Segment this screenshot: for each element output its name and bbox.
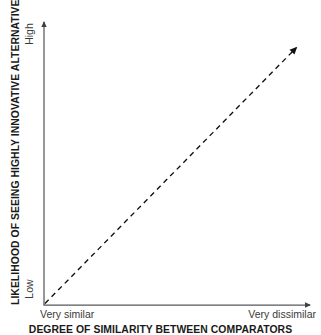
- x-tick-label-left: Very similar: [40, 308, 94, 320]
- x-tick-label-right: Very dissimilar: [248, 308, 316, 320]
- x-axis-title: DEGREE OF SIMILARITY BETWEEN COMPARATORS: [0, 324, 321, 335]
- trend-line-series: [45, 48, 296, 304]
- plot-area: [0, 0, 321, 335]
- chart-figure: LIKELIHOOD OF SEEING HIGHLY INNOVATIVE A…: [0, 0, 321, 335]
